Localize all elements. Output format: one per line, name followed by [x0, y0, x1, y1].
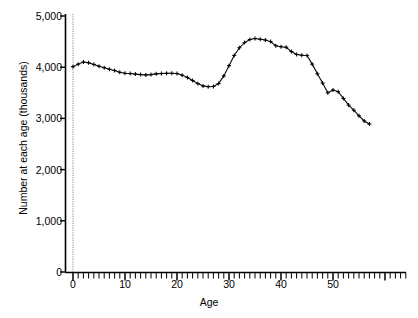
data-point-marker	[133, 72, 137, 76]
data-point-marker	[128, 72, 132, 76]
data-point-marker	[97, 64, 101, 68]
data-point-marker	[87, 61, 91, 65]
data-point-marker	[263, 38, 267, 42]
data-point-marker	[227, 64, 231, 68]
data-point-marker	[113, 69, 117, 73]
data-point-marker	[102, 66, 106, 70]
data-point-marker	[326, 91, 330, 95]
data-point-marker	[211, 84, 215, 88]
data-point-marker	[300, 53, 304, 57]
data-point-marker	[258, 37, 262, 41]
data-point-marker	[175, 72, 179, 76]
data-point-marker	[315, 72, 319, 76]
data-point-marker	[180, 73, 184, 77]
data-point-marker	[159, 72, 163, 76]
data-point-marker	[253, 37, 257, 41]
data-point-marker	[123, 71, 127, 75]
data-point-marker	[279, 45, 283, 49]
data-point-marker	[76, 62, 80, 66]
data-point-marker	[201, 84, 205, 88]
data-point-markers	[71, 37, 371, 127]
data-point-marker	[206, 85, 210, 89]
data-point-marker	[144, 73, 148, 77]
chart-canvas: 5,000 4,000 3,000 2,000 1,000 0 0 10 20 …	[0, 0, 418, 318]
data-point-marker	[295, 52, 299, 56]
data-point-marker	[118, 70, 122, 74]
plot-area	[0, 0, 418, 318]
data-line-population	[73, 39, 369, 125]
data-point-marker	[81, 60, 85, 64]
data-point-marker	[107, 67, 111, 71]
x-axis-ticks	[73, 273, 406, 281]
data-point-marker	[154, 72, 158, 76]
data-point-marker	[165, 71, 169, 75]
data-point-marker	[92, 62, 96, 66]
data-point-marker	[149, 73, 153, 77]
data-point-marker	[71, 65, 75, 69]
data-point-marker	[331, 88, 335, 92]
data-point-marker	[321, 81, 325, 85]
data-point-marker	[170, 71, 174, 75]
data-point-marker	[139, 73, 143, 77]
